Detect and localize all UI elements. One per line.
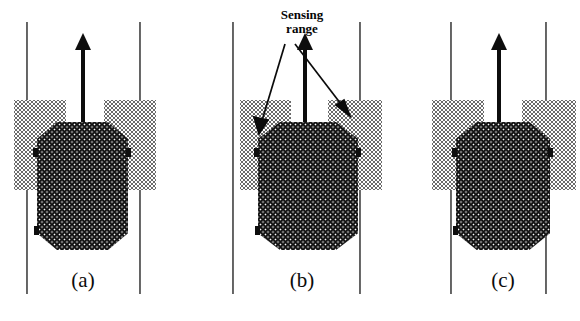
heading-arrow-head-c <box>491 33 507 50</box>
panel-caption-c: (c) <box>472 268 534 293</box>
leader-line-left <box>261 44 285 124</box>
heading-arrow-shaft-c <box>497 50 501 128</box>
heading-arrow-head-a <box>75 33 91 50</box>
panel-a: (a) <box>0 0 193 321</box>
vehicle-notch-left-a <box>33 148 38 157</box>
panel-caption-a: (a) <box>52 268 114 293</box>
panel-c: (c) <box>387 0 580 321</box>
panel-b: Sensing range (b) <box>193 0 387 321</box>
sensing-range-leaders <box>193 0 387 200</box>
heading-arrow-shaft-a <box>81 50 85 128</box>
sensing-range-figure: (a) Sensing range ( <box>0 0 580 321</box>
vehicle-notch-left-rear-b <box>255 226 260 235</box>
vehicle-notch-left-rear-a <box>34 226 39 235</box>
leader-arrowhead-right <box>336 100 350 116</box>
panel-caption-b: (b) <box>271 268 333 293</box>
leader-arrowhead-left <box>254 117 268 134</box>
vehicle-body-c <box>456 122 550 250</box>
vehicle-notch-right-c <box>548 148 553 157</box>
vehicle-notch-left-rear-c <box>453 226 458 235</box>
leader-line-right <box>295 44 344 108</box>
vehicle-notch-right-a <box>126 148 131 157</box>
vehicle-body-a <box>37 122 128 250</box>
vehicle-notch-left-c <box>452 148 457 157</box>
